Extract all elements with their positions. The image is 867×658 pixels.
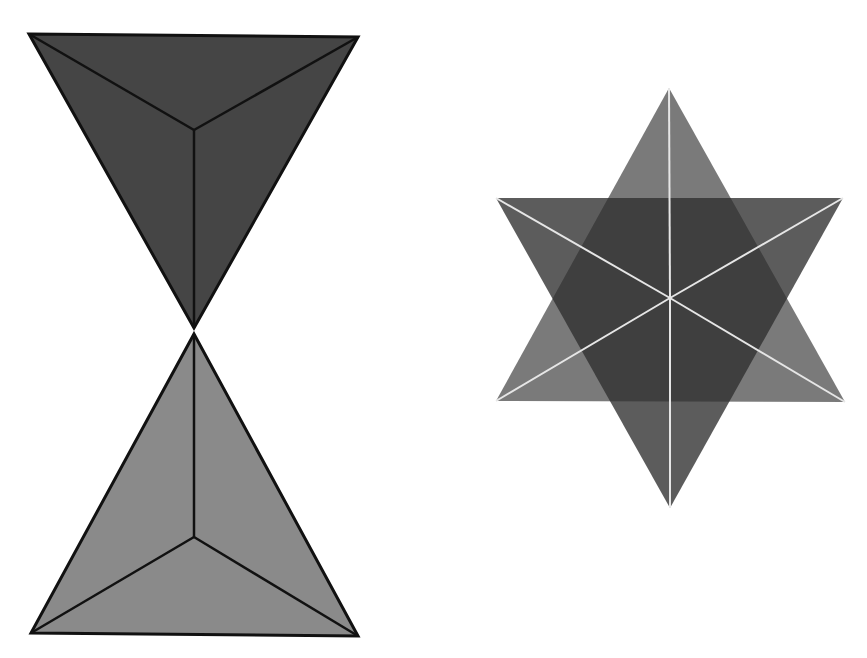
star-tetrahedron [496,88,845,508]
geometry-figure [0,0,867,658]
upper-tetrahedron [29,34,358,328]
figure-canvas [0,0,867,658]
star-edge-top [669,88,670,298]
lower-tetrahedron [31,334,358,636]
